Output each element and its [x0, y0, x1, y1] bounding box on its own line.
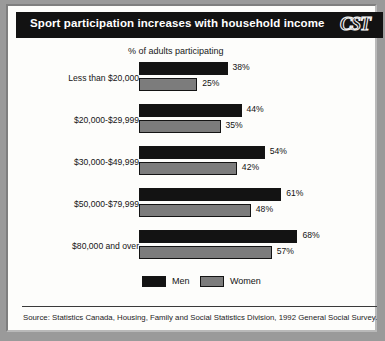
category-label: Less than $20,000 — [19, 73, 139, 83]
source-note: Source: Statistics Canada, Housing, Fami… — [23, 313, 377, 322]
bar-men — [139, 104, 242, 117]
title-bar: Sport participation increases with house… — [16, 12, 383, 38]
bar-value-label: 25% — [202, 78, 219, 88]
bar-value-label: 57% — [277, 246, 294, 256]
bar-women — [139, 246, 272, 259]
bar-men — [139, 188, 281, 201]
chart-card: Sport participation increases with house… — [6, 4, 377, 332]
bar-women — [139, 78, 197, 91]
bar-women — [139, 204, 251, 217]
bar-men — [139, 230, 297, 243]
legend-swatch-men-icon — [142, 276, 166, 287]
category-label: $80,000 and over — [19, 241, 139, 251]
chart-legend: Men Women — [18, 274, 381, 292]
bar-group: $80,000 and over68%57% — [18, 228, 381, 270]
screenshot-root: Sport participation increases with house… — [0, 0, 385, 341]
bar-value-label: 42% — [242, 162, 259, 172]
chart-area: % of adults participating Less than $20,… — [18, 42, 381, 304]
legend-swatch-women-icon — [200, 276, 224, 287]
bar-value-label: 61% — [286, 188, 303, 198]
footer-divider — [22, 306, 377, 307]
bar-plot: Less than $20,00038%25%$20,000-$29,99944… — [18, 60, 381, 270]
x-axis-caption: % of adults participating — [128, 46, 224, 56]
bar-men — [139, 146, 265, 159]
category-label: $30,000-$49,999 — [19, 157, 139, 167]
legend-label-men: Men — [172, 276, 190, 286]
legend-item-women: Women — [200, 274, 261, 288]
bar-group: $50,000-$79,99961%48% — [18, 186, 381, 228]
bar-value-label: 35% — [226, 120, 243, 130]
bar-value-label: 38% — [233, 62, 250, 72]
page-title: Sport participation increases with house… — [30, 17, 325, 29]
bar-value-label: 44% — [247, 104, 264, 114]
bar-women — [139, 162, 237, 175]
bar-value-label: 68% — [302, 230, 319, 240]
category-label: $50,000-$79,999 — [19, 199, 139, 209]
bar-group: Less than $20,00038%25% — [18, 60, 381, 102]
bar-value-label: 54% — [270, 146, 287, 156]
bar-women — [139, 120, 221, 133]
cst-logo: CST — [340, 14, 370, 35]
category-label: $20,000-$29,999 — [19, 115, 139, 125]
bar-group: $30,000-$49,99954%42% — [18, 144, 381, 186]
bar-group: $20,000-$29,99944%35% — [18, 102, 381, 144]
bar-men — [139, 62, 228, 75]
legend-label-women: Women — [230, 276, 261, 286]
bar-value-label: 48% — [256, 204, 273, 214]
legend-item-men: Men — [142, 274, 190, 288]
